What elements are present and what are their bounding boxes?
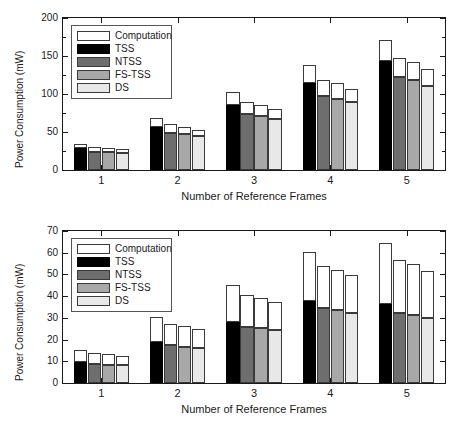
bar-segment-computation [164, 124, 177, 133]
y-tick-mark [440, 318, 445, 319]
bar-segment-tss [74, 362, 87, 383]
bar-tss-frame3 [226, 92, 239, 170]
bar-segment-computation [407, 264, 420, 315]
bar-fs-tss-frame1 [102, 148, 115, 170]
bar-tss-frame2 [150, 118, 163, 170]
y-tick-mark [440, 94, 445, 95]
legend-label: NTSS [115, 270, 142, 280]
bar-segment-fstss [331, 310, 344, 383]
x-tick-label: 5 [404, 388, 410, 399]
y-tick-label: 0 [52, 165, 63, 175]
bar-segment-ds [116, 153, 129, 170]
y-tick-mark [440, 18, 445, 19]
bar-segment-ntss [393, 313, 406, 383]
y-tick-label: 0 [52, 378, 63, 388]
bar-segment-computation [164, 324, 177, 345]
bar-segment-computation [393, 58, 406, 77]
legend-label: TSS [115, 44, 134, 54]
bar-fs-tss-frame5 [407, 264, 420, 383]
bar-ntss-frame1 [88, 147, 101, 170]
bar-segment-computation [226, 285, 239, 322]
y-tick-mark [440, 253, 445, 254]
legend-item-ntss: NTSS [77, 269, 166, 281]
x-tick-label: 1 [98, 175, 104, 186]
bar-ds-frame1 [116, 356, 129, 383]
bar-segment-ntss [393, 77, 406, 170]
bar-fs-tss-frame2 [178, 326, 191, 383]
bar-segment-ntss [317, 308, 330, 383]
x-tick-mark [178, 18, 179, 23]
bar-fs-tss-frame3 [254, 298, 267, 383]
bar-segment-fstss [254, 116, 267, 170]
bar-segment-computation [421, 69, 434, 86]
bar-segment-computation [268, 109, 281, 119]
bar-segment-computation [240, 102, 253, 113]
bar-ds-frame2 [192, 329, 205, 383]
y-tick-mark [63, 383, 68, 384]
y-tick-mark [440, 274, 445, 275]
y-tick-label: 10 [47, 356, 63, 366]
y-tick-mark [63, 340, 68, 341]
bar-segment-computation [331, 270, 344, 310]
bar-segment-fstss [102, 365, 115, 383]
bar-segment-ds [345, 102, 358, 170]
bar-segment-computation [421, 271, 434, 319]
bar-ntss-frame4 [317, 266, 330, 383]
y-tick-minor [63, 37, 66, 38]
legend-swatch-ntss [77, 57, 110, 67]
x-tick-label: 2 [175, 175, 181, 186]
chart-legend: ComputationTSSNTSSFS-TSSDS [71, 25, 172, 99]
legend-item-ds: DS [77, 82, 166, 94]
legend-label: Computation [115, 244, 172, 254]
y-tick-minor [63, 113, 66, 114]
y-tick-label: 50 [47, 269, 63, 279]
bar-segment-computation [303, 65, 316, 82]
bar-fs-tss-frame3 [254, 105, 267, 170]
x-tick-mark [254, 18, 255, 23]
bar-segment-ntss [88, 152, 101, 170]
y-tick-label: 70 [47, 226, 63, 236]
y-tick-mark [63, 253, 68, 254]
bar-fs-tss-frame4 [331, 270, 344, 383]
legend-item-tss: TSS [77, 43, 166, 55]
bar-segment-ds [116, 365, 129, 383]
x-axis-title-top: Number of Reference Frames [62, 190, 446, 202]
bar-tss-frame5 [379, 243, 392, 383]
bar-segment-computation [88, 353, 101, 364]
bar-ntss-frame1 [88, 353, 101, 383]
bar-segment-fstss [407, 315, 420, 383]
bar-tss-frame2 [150, 317, 163, 383]
bar-segment-computation [150, 118, 163, 126]
bar-ntss-frame2 [164, 324, 177, 383]
y-tick-label: 30 [47, 313, 63, 323]
legend-swatch-fstss [77, 283, 110, 293]
x-tick-label: 2 [175, 388, 181, 399]
y-tick-mark [440, 361, 445, 362]
y-axis-title-top: Power Consumption (mW) [14, 51, 25, 168]
bar-segment-computation [240, 295, 253, 326]
legend-swatch-fstss [77, 70, 110, 80]
bar-ds-frame2 [192, 130, 205, 170]
bar-segment-computation [268, 302, 281, 330]
bar-segment-tss [150, 342, 163, 383]
y-tick-mark [440, 383, 445, 384]
legend-label: TSS [115, 257, 134, 267]
x-tick-label: 3 [251, 388, 257, 399]
bar-segment-computation [317, 80, 330, 95]
bar-ds-frame4 [345, 89, 358, 170]
x-tick-label: 1 [98, 388, 104, 399]
bar-segment-computation [407, 62, 420, 80]
bar-segment-fstss [178, 347, 191, 383]
bar-segment-tss [303, 83, 316, 170]
bar-segment-computation [102, 354, 115, 364]
bar-segment-computation [254, 298, 267, 328]
y-tick-mark [63, 231, 68, 232]
bar-segment-tss [226, 322, 239, 383]
bar-segment-computation [192, 329, 205, 348]
bar-segment-computation [178, 326, 191, 346]
y-axis-title-bottom: Power Consumption (mW) [14, 264, 25, 381]
y-tick-minor [63, 151, 66, 152]
x-tick-label: 4 [327, 175, 333, 186]
bar-tss-frame5 [379, 40, 392, 170]
bar-segment-tss [226, 105, 239, 170]
